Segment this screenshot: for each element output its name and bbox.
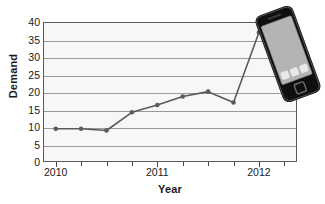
- x-axis-title: Year: [43, 183, 297, 195]
- y-axis-tick: 30: [6, 51, 40, 63]
- x-axis-minor-tick-mark: [132, 162, 133, 166]
- x-axis-tick-mark: [259, 162, 260, 167]
- y-axis-tick: 40: [6, 16, 40, 28]
- gridline: [44, 128, 296, 129]
- gridline: [44, 146, 296, 147]
- x-axis-tick: 2011: [132, 166, 182, 178]
- x-axis-tick-mark: [157, 162, 158, 167]
- y-axis-tick: 20: [6, 86, 40, 98]
- x-axis-minor-tick-mark: [107, 162, 108, 166]
- y-axis-tick: 35: [6, 34, 40, 46]
- x-axis-minor-tick-mark: [284, 162, 285, 166]
- x-axis-minor-tick-mark: [234, 162, 235, 166]
- gridline: [44, 111, 296, 112]
- x-axis-minor-tick-mark: [208, 162, 209, 166]
- x-axis-minor-tick-mark: [81, 162, 82, 166]
- x-axis-tick-mark: [56, 162, 57, 167]
- x-axis-tick: 2010: [31, 166, 81, 178]
- y-axis-tick: 25: [6, 69, 40, 81]
- smartphone-icon: [252, 2, 324, 106]
- y-axis-tick: 10: [6, 121, 40, 133]
- x-axis-tick: 2012: [234, 166, 284, 178]
- x-axis-minor-tick-mark: [183, 162, 184, 166]
- y-axis-tick: 5: [6, 139, 40, 151]
- y-axis-tick: 15: [6, 104, 40, 116]
- chart-figure: Demand 0510152025303540 201020112012 Yea…: [0, 0, 325, 204]
